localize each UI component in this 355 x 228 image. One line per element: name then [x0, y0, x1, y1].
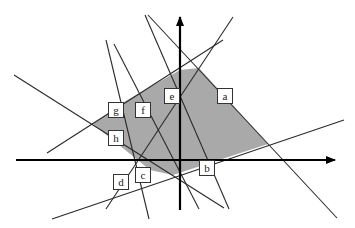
label-f: f	[136, 103, 151, 118]
label-text: b	[204, 162, 210, 174]
label-a: a	[218, 89, 233, 104]
label-c: c	[136, 168, 151, 183]
label-text: h	[113, 132, 119, 144]
label-b: b	[200, 161, 215, 176]
label-text: g	[113, 104, 119, 116]
label-text: a	[223, 90, 228, 102]
label-text: c	[141, 169, 146, 181]
label-text: f	[141, 104, 145, 116]
label-g: g	[109, 103, 124, 118]
label-e: e	[165, 89, 180, 104]
label-text: d	[118, 176, 124, 188]
label-text: e	[170, 90, 175, 102]
label-h: h	[109, 131, 124, 146]
label-d: d	[114, 175, 129, 190]
half-plane-diagram: abcdefgh	[0, 0, 355, 228]
